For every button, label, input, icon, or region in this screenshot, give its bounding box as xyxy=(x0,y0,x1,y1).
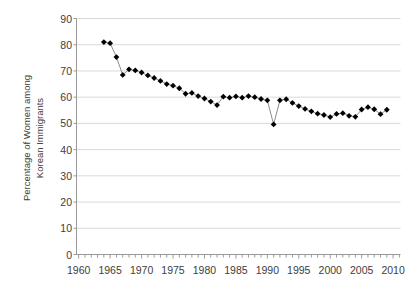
data-point-marker xyxy=(327,114,333,120)
data-point-marker xyxy=(164,81,170,87)
data-point-marker xyxy=(145,73,151,79)
data-point-marker xyxy=(365,104,371,110)
data-point-marker xyxy=(346,113,352,119)
chart-container: Percentage of Women among Korean Immigra… xyxy=(0,0,409,295)
data-point-marker xyxy=(308,108,314,114)
data-point-marker xyxy=(202,96,208,102)
data-point-marker xyxy=(271,122,277,128)
data-point-marker xyxy=(302,106,308,112)
data-point-marker xyxy=(296,103,302,109)
data-point-marker xyxy=(277,97,283,103)
data-point-marker xyxy=(114,54,120,60)
data-point-marker xyxy=(170,83,176,89)
data-point-marker xyxy=(315,111,321,117)
data-point-marker xyxy=(101,39,107,45)
data-point-marker xyxy=(340,110,346,116)
axis-lines xyxy=(77,19,401,255)
data-point-marker xyxy=(151,75,157,81)
data-point-marker xyxy=(321,112,327,118)
data-markers xyxy=(101,39,390,127)
data-point-marker xyxy=(334,111,340,117)
data-point-marker xyxy=(233,93,239,99)
data-point-marker xyxy=(132,68,138,74)
data-point-marker xyxy=(195,93,201,99)
plot-area xyxy=(0,0,409,295)
data-point-marker xyxy=(290,100,296,106)
data-point-marker xyxy=(208,99,214,105)
data-point-marker xyxy=(189,90,195,96)
data-point-marker xyxy=(384,107,390,113)
data-point-marker xyxy=(239,95,245,101)
data-point-marker xyxy=(264,97,270,103)
x-axis-ticks xyxy=(79,255,400,259)
data-point-marker xyxy=(227,95,233,101)
data-point-marker xyxy=(158,78,164,84)
data-point-marker xyxy=(252,94,258,100)
data-point-marker xyxy=(246,93,252,99)
gridlines xyxy=(77,19,401,229)
